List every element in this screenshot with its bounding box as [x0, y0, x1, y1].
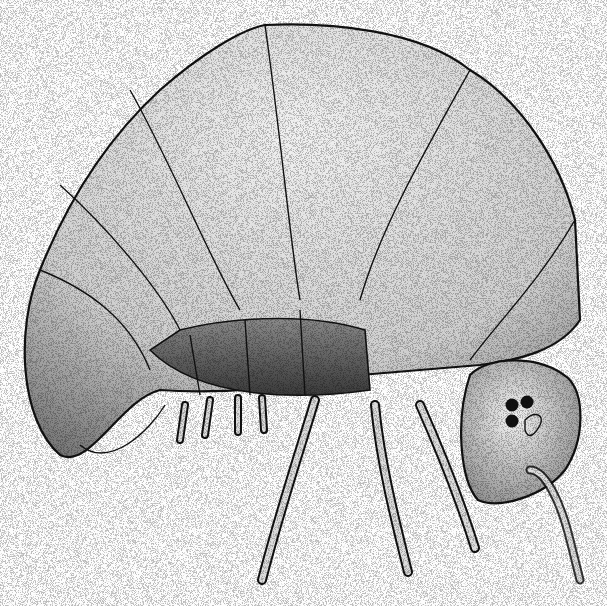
springtail-illustration: [0, 0, 607, 606]
